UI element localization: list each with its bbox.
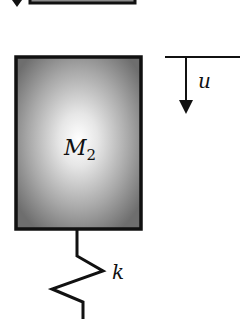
upper-arrowhead-icon [12,0,22,7]
spring-label: k [112,260,124,284]
displacement-arrowhead-icon [179,100,193,114]
spring-k [52,229,103,319]
displacement-label: u [198,69,211,93]
upper-mass-partial [30,0,135,3]
mass-spring-diagram: M2 u k [0,0,240,319]
